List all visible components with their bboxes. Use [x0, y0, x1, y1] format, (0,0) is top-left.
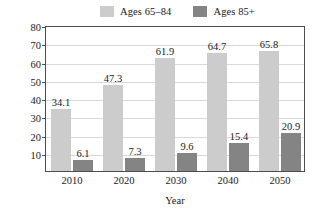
bar-value-label: 65.8 — [260, 39, 278, 50]
y-axis-tick — [42, 118, 46, 119]
y-axis-tick — [42, 45, 46, 46]
y-axis-tick-label: 30 — [31, 113, 42, 124]
bar — [177, 153, 197, 171]
legend-swatch-icon-ages-85-plus — [193, 6, 207, 17]
gridline — [46, 27, 304, 28]
x-axis-tick-label: 2020 — [114, 175, 135, 186]
chart-legend: Ages 65–84 Ages 85+ — [100, 3, 290, 19]
y-axis-tick — [42, 137, 46, 138]
x-axis-tick-label: 2030 — [166, 175, 187, 186]
bar-value-label: 15.4 — [230, 131, 248, 142]
bar-value-label: 6.1 — [76, 148, 89, 159]
y-axis-tick-label: 40 — [31, 95, 42, 106]
y-axis-tick-label: 80 — [31, 22, 42, 33]
y-axis-tick — [42, 155, 46, 156]
plot-area: 102030405060708034.16.1201047.37.3202061… — [45, 26, 305, 172]
y-axis-tick — [42, 82, 46, 83]
bar — [207, 53, 227, 171]
y-axis-tick — [42, 100, 46, 101]
bar-value-label: 34.1 — [52, 97, 70, 108]
legend-label-ages-85-plus: Ages 85+ — [213, 6, 254, 17]
x-axis-tick-label: 2050 — [270, 175, 291, 186]
bar-value-label: 47.3 — [104, 73, 122, 84]
x-axis-tick-label: 2040 — [218, 175, 239, 186]
bar — [229, 143, 249, 171]
legend-swatch-icon-ages-65-84 — [100, 6, 114, 17]
bar-chart: Ages 65–84 Ages 85+ Projected Population… — [0, 0, 321, 214]
y-axis-tick-label: 70 — [31, 40, 42, 51]
y-axis-tick-label: 60 — [31, 58, 42, 69]
bar — [103, 85, 123, 171]
bar — [281, 133, 301, 171]
y-axis-tick-label: 10 — [31, 149, 42, 160]
x-axis-tick-label: 2010 — [62, 175, 83, 186]
bar-value-label: 20.9 — [282, 121, 300, 132]
x-axis-title: Year — [45, 195, 305, 206]
y-axis-tick-label: 50 — [31, 76, 42, 87]
y-axis-tick — [42, 27, 46, 28]
bar-value-label: 9.6 — [180, 141, 193, 152]
bar-value-label: 61.9 — [156, 46, 174, 57]
bar-value-label: 7.3 — [128, 146, 141, 157]
bar-value-label: 64.7 — [208, 41, 226, 52]
bar — [259, 51, 279, 171]
legend-entry-ages-85-plus: Ages 85+ — [193, 6, 254, 17]
y-axis-tick — [42, 64, 46, 65]
legend-label-ages-65-84: Ages 65–84 — [120, 6, 171, 17]
y-axis-tick-label: 20 — [31, 131, 42, 142]
bar — [51, 109, 71, 171]
bar — [125, 158, 145, 171]
legend-entry-ages-65-84: Ages 65–84 — [100, 6, 171, 17]
bar — [155, 58, 175, 171]
bar — [73, 160, 93, 171]
